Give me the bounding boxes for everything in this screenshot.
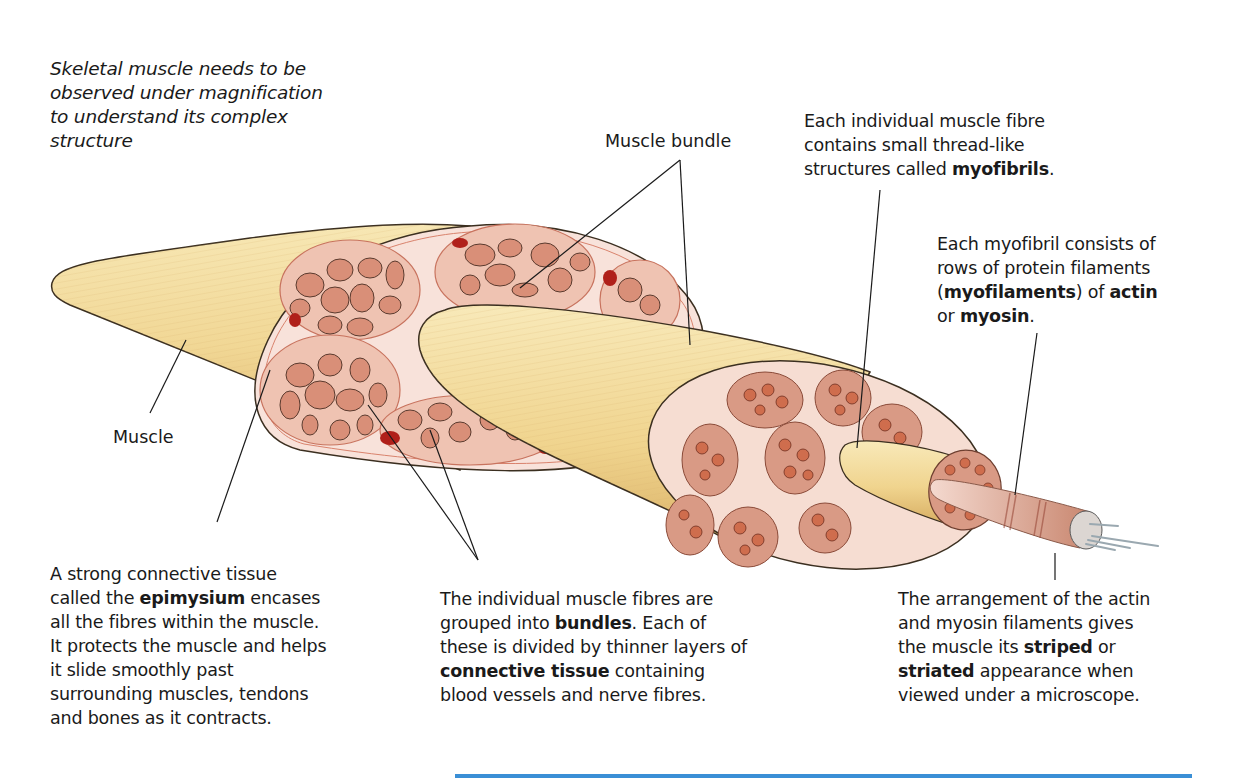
callout-line: Each individual muscle fibre: [804, 109, 1054, 133]
text: called the: [50, 588, 140, 608]
callout-bundles: The individual muscle fibres are grouped…: [440, 587, 747, 707]
text: or: [937, 306, 960, 326]
callout-line: (myofilaments) of actin: [937, 280, 1158, 304]
callout-line: It protects the muscle and helps: [50, 634, 326, 658]
callout-line: and myosin filaments gives: [898, 611, 1150, 635]
callout-line: blood vessels and nerve fibres.: [440, 683, 747, 707]
callout-line: these is divided by thinner layers of: [440, 635, 747, 659]
footer-rule: [455, 774, 1192, 778]
intro-line: observed under magnification: [50, 81, 323, 105]
term-myofibrils: myofibrils: [952, 159, 1049, 179]
text: .: [1029, 306, 1034, 326]
callout-line: The arrangement of the actin: [898, 587, 1150, 611]
label-muscle-bundle: Muscle bundle: [605, 130, 731, 152]
leader-epimysium: [217, 370, 270, 522]
term-striated: striated: [898, 661, 974, 681]
text: ) of: [1076, 282, 1110, 302]
term-bundles: bundles: [555, 613, 632, 633]
callout-line: rows of protein filaments: [937, 256, 1158, 280]
text: appearance when: [974, 661, 1133, 681]
term-connective-tissue: connective tissue: [440, 661, 609, 681]
callout-striated: The arrangement of the actin and myosin …: [898, 587, 1150, 707]
intro-line: to understand its complex: [50, 105, 323, 129]
callout-line: structures called myofibrils.: [804, 157, 1054, 181]
label-muscle: Muscle: [113, 426, 174, 448]
text: .: [1049, 159, 1054, 179]
callout-line: Each myofibril consists of: [937, 232, 1158, 256]
text: containing: [609, 661, 704, 681]
intro-text: Skeletal muscle needs to be observed und…: [50, 57, 323, 153]
callout-line: all the fibres within the muscle.: [50, 610, 326, 634]
text: grouped into: [440, 613, 555, 633]
callout-line: grouped into bundles. Each of: [440, 611, 747, 635]
leader-myofilaments: [1015, 333, 1037, 495]
text: encases: [245, 588, 320, 608]
callout-line: striated appearance when: [898, 659, 1150, 683]
text: . Each of: [632, 613, 706, 633]
callout-myofibrils: Each individual muscle fibre contains sm…: [804, 109, 1054, 181]
callout-line: and bones as it contracts.: [50, 706, 326, 730]
text: the muscle its: [898, 637, 1024, 657]
callout-epimysium: A strong connective tissue called the ep…: [50, 562, 326, 730]
intro-line: structure: [50, 129, 323, 153]
text: (: [937, 282, 944, 302]
callout-line: the muscle its striped or: [898, 635, 1150, 659]
callout-line: A strong connective tissue: [50, 562, 326, 586]
callout-myofilaments: Each myofibril consists of rows of prote…: [937, 232, 1158, 328]
callout-line: contains small thread-like: [804, 133, 1054, 157]
callout-line: surrounding muscles, tendons: [50, 682, 326, 706]
text: or: [1093, 637, 1116, 657]
callout-line: or myosin.: [937, 304, 1158, 328]
callout-line: it slide smoothly past: [50, 658, 326, 682]
term-striped: striped: [1024, 637, 1093, 657]
term-actin: actin: [1110, 282, 1158, 302]
callout-line: called the epimysium encases: [50, 586, 326, 610]
text: structures called: [804, 159, 952, 179]
term-epimysium: epimysium: [140, 588, 245, 608]
term-myosin: myosin: [960, 306, 1029, 326]
callout-line: viewed under a microscope.: [898, 683, 1150, 707]
leader-muscle: [150, 340, 186, 413]
term-myofilaments: myofilaments: [944, 282, 1076, 302]
callout-line: The individual muscle fibres are: [440, 587, 747, 611]
callout-line: connective tissue containing: [440, 659, 747, 683]
intro-line: Skeletal muscle needs to be: [50, 57, 323, 81]
